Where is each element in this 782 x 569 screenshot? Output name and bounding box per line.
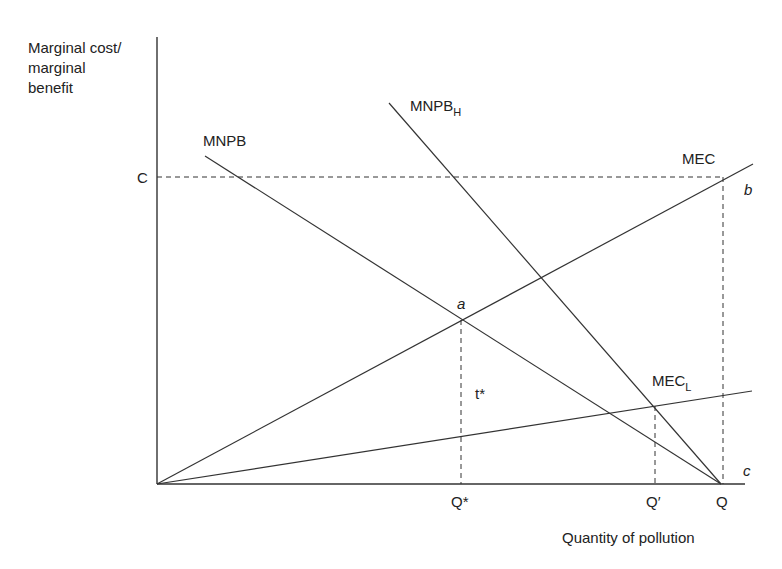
y-axis-label-line1: Marginal cost/ [28,39,122,56]
mnpb-h-curve [389,103,721,484]
point-a-label: a [457,295,465,312]
point-b-label: b [744,181,752,198]
mec-curve [157,164,753,484]
x-tick-q: Q [716,493,728,510]
x-axis-label: Quantity of pollution [562,529,695,546]
y-axis-label-line3: benefit [28,79,74,96]
y-axis-label-line2: marginal [28,59,86,76]
x-tick-q-prime: Q′ [646,493,661,510]
mnpb-label: MNPB [203,132,246,149]
x-tick-q-star: Q* [451,493,469,510]
mec-label: MEC [682,150,716,167]
point-c-label: c [743,462,751,479]
mec-l-label: MECL [652,372,691,393]
pollution-diagram: Marginal cost/ marginal benefit C MNPB M… [0,0,782,569]
mec-l-curve [157,391,752,484]
mnpb-h-label: MNPBH [410,97,461,118]
mnpb-curve [205,156,721,484]
tax-label: t* [475,385,485,402]
y-tick-c: C [137,169,148,186]
